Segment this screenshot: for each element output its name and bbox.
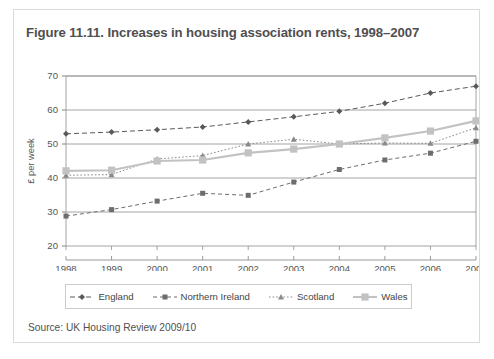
data-point-northern-ireland <box>474 139 479 144</box>
y-tick-label: 50 <box>47 138 58 149</box>
data-point-england <box>245 119 251 125</box>
x-tick-label: 2001 <box>192 263 213 271</box>
data-point-england <box>427 90 433 96</box>
triangle-marker-dotted-line <box>268 291 294 303</box>
data-point-scotland <box>473 125 479 131</box>
legend-item-england[interactable]: England <box>69 291 133 303</box>
data-point-northern-ireland <box>291 180 296 185</box>
legend-label: Wales <box>381 291 407 302</box>
y-tick-label: 20 <box>47 240 58 251</box>
data-point-england <box>291 114 297 120</box>
data-point-wales <box>245 149 252 156</box>
data-point-wales <box>154 157 161 164</box>
x-tick-label: 2007 <box>465 263 479 271</box>
data-point-england <box>382 100 388 106</box>
line-chart-svg: 2030405060701998199920002001200220032004… <box>14 56 479 271</box>
data-point-england <box>473 83 479 89</box>
data-point-wales <box>108 167 115 174</box>
data-point-wales <box>290 146 297 153</box>
data-point-wales <box>427 127 434 134</box>
data-point-northern-ireland <box>337 167 342 172</box>
data-point-england <box>154 127 160 133</box>
source-note: Source: UK Housing Review 2009/10 <box>28 322 196 333</box>
data-point-england <box>336 108 342 114</box>
diamond-marker-dashed-line <box>69 291 95 303</box>
y-axis-title: £ per week <box>26 138 36 184</box>
legend-label: England <box>98 291 133 302</box>
figure-panel: Figure 11.11. Increases in housing assoc… <box>13 9 480 343</box>
data-point-wales <box>199 156 206 163</box>
data-point-northern-ireland <box>246 193 251 198</box>
data-point-england <box>63 131 69 137</box>
x-tick-label: 2000 <box>146 263 167 271</box>
legend-label: Scotland <box>297 291 334 302</box>
chart-legend: EnglandNorthern IrelandScotlandWales <box>65 284 412 309</box>
series-line-wales <box>66 121 476 171</box>
data-point-northern-ireland <box>382 157 387 162</box>
figure-title: Figure 11.11. Increases in housing assoc… <box>26 25 419 40</box>
square-marker-dashed-line <box>152 291 178 303</box>
x-tick-label: 1998 <box>55 263 76 271</box>
legend-item-wales[interactable]: Wales <box>352 291 407 303</box>
chart-plot-area: 2030405060701998199920002001200220032004… <box>14 56 479 271</box>
x-tick-label: 2005 <box>374 263 395 271</box>
legend-label: Northern Ireland <box>181 291 250 302</box>
y-tick-label: 40 <box>47 172 58 183</box>
y-tick-label: 30 <box>47 206 58 217</box>
data-point-northern-ireland <box>155 199 160 204</box>
x-tick-label: 2002 <box>238 263 259 271</box>
data-point-wales <box>472 117 479 124</box>
y-tick-label: 60 <box>47 104 58 115</box>
legend-item-northern-ireland[interactable]: Northern Ireland <box>152 291 250 303</box>
data-point-northern-ireland <box>200 191 205 196</box>
x-tick-label: 1999 <box>101 263 122 271</box>
series-line-northern-ireland <box>66 141 476 216</box>
data-point-northern-ireland <box>428 151 433 156</box>
data-point-england <box>109 129 115 135</box>
data-point-wales <box>336 140 343 147</box>
data-point-northern-ireland <box>109 207 114 212</box>
x-tick-label: 2003 <box>283 263 304 271</box>
legend-item-scotland[interactable]: Scotland <box>268 291 334 303</box>
x-tick-label: 2006 <box>420 263 441 271</box>
data-point-wales <box>381 134 388 141</box>
data-point-england <box>200 124 206 130</box>
y-tick-label: 70 <box>47 70 58 81</box>
data-point-wales <box>62 167 69 174</box>
square-marker-solid-line <box>352 291 378 303</box>
x-tick-label: 2004 <box>329 263 351 271</box>
data-point-northern-ireland <box>64 214 69 219</box>
